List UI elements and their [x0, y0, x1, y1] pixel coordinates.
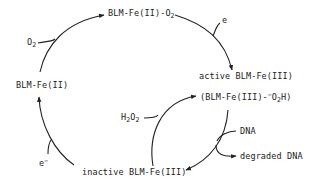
superscript: −	[44, 157, 48, 165]
arrow-hydroperoxo-to-inactive	[186, 110, 228, 170]
node-inactive-blm-fe3: inactive BLM-Fe(III)	[82, 168, 186, 177]
subscript: 2	[32, 41, 36, 49]
node-blm-fe2: BLM-Fe(II)	[16, 81, 68, 90]
subscript: 2	[171, 12, 175, 20]
reagent-electron-minus: e−	[39, 158, 48, 168]
node-active-blm-fe3: active BLM-Fe(III)	[199, 72, 293, 81]
node-text: BLM-Fe(II)-O	[108, 8, 171, 18]
reagent-h2o2: H2O2	[121, 113, 139, 124]
product-degraded-dna: degraded DNA	[240, 152, 303, 161]
subscript: 2	[135, 116, 139, 124]
product-arrow-degraded-dna	[216, 145, 236, 156]
reagent-line-e	[213, 23, 220, 36]
arrow-inactive-to-hydroperoxo	[152, 96, 196, 166]
reagent-line-o2	[38, 39, 55, 43]
node-text: (BLM-Fe(III)-	[200, 92, 268, 102]
reagent-line-e-minus	[48, 140, 51, 154]
arrow-inactive-to-fe2	[39, 97, 74, 165]
node-text: H)	[281, 92, 291, 102]
reagent-electron: e	[222, 16, 227, 25]
reagent-o2: O2	[27, 38, 36, 49]
node-hydroperoxo-complex: (BLM-Fe(III)-−O2H)	[200, 92, 292, 104]
reagent-line-h2o2	[144, 115, 158, 118]
node-blm-fe2-o2: BLM-Fe(II)-O2	[108, 9, 175, 20]
reagent-dna: DNA	[240, 127, 256, 136]
bleomycin-iron-cycle-diagram: BLM-Fe(II)-O2 O2 e BLM-Fe(II) active BLM…	[0, 0, 312, 185]
arrow-fe2-to-fe2o2	[40, 15, 104, 72]
